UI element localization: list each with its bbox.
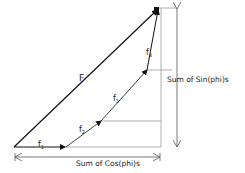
label-f1: f1 [38,140,44,150]
vector-f4 [147,10,158,70]
vector-f3 [101,70,147,121]
label-F: F [79,73,84,83]
label-f2-sub: 2 [82,129,85,135]
vector-sum-diagram: F f1 f2 f3 f4 Sum of Sin(phi)s Sum of Co… [0,0,245,173]
vector-F-resultant [14,10,157,147]
label-sum-cos: Sum of Cos(phi)s [76,159,140,168]
resultant-tip-marker [154,7,159,12]
label-sum-sin: Sum of Sin(phi)s [167,75,229,84]
label-f4-sub: 4 [149,52,152,58]
label-f3: f3 [113,94,119,104]
label-f2: f2 [79,125,85,135]
label-f1-sub: 1 [41,144,44,150]
label-f3-sub: 3 [116,98,119,104]
